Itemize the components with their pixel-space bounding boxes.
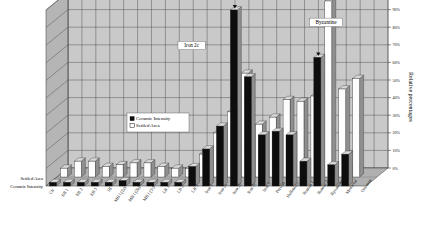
bar-ceramic-intensity-lb-3 [189, 163, 200, 186]
annotation-text: Iron 2c [184, 42, 200, 48]
legend-label-ceramic-intensity: Ceramic Intensity [136, 116, 171, 121]
y-tick-label-10%: 10% [393, 148, 401, 153]
y-tick-label-60%: 60% [393, 60, 401, 65]
bar-settled-area-medieval [353, 75, 364, 177]
bar-settled-area-mb-i-2c- [158, 163, 169, 177]
bar-settled-area-eb-2 [88, 158, 99, 177]
bar-settled-area-mb-i-2a- [130, 160, 141, 177]
bar-ceramic-intensity-medieval [342, 151, 353, 186]
legend-swatch-settled-area [130, 124, 134, 128]
chart-container: 0%10%20%30%40%50%60%70%80%90%100% ChEB 1… [0, 0, 425, 230]
bar-ceramic-intensity-iron-1 [203, 146, 214, 186]
annotation-text: Byzantine [315, 19, 337, 25]
bar-ceramic-intensity-iron-2a [216, 123, 227, 186]
bar-ceramic-intensity-hellenistic [286, 132, 297, 186]
legend-swatch-ceramic-intensity [130, 117, 134, 121]
y-tick-label-90%: 90% [393, 7, 401, 12]
row-label-settled-area: Settled Area [20, 176, 43, 181]
y-tick-label-70%: 70% [393, 42, 401, 47]
bar-settled-area-eb-3 [102, 163, 113, 177]
bar-settled-area-lb-1 [172, 165, 183, 177]
legend-label-settled-area: Settled Area [136, 123, 160, 128]
bar-chart-3d: 0%10%20%30%40%50%60%70%80%90%100% ChEB 1… [0, 0, 425, 230]
bar-settled-area-ib [116, 161, 127, 177]
bar-ceramic-intensity-iron-2b [230, 7, 241, 186]
annotation-byzantine: Byzantine [309, 18, 342, 27]
y-axis-title: Relative percentages [408, 72, 414, 122]
annotation-iron-2c: Iron 2c [178, 41, 205, 50]
chart-legend: Ceramic Intensity Settled Area [127, 113, 189, 132]
bar-ceramic-intensity-iron-3 [258, 132, 269, 186]
y-tick-label-40%: 40% [393, 95, 401, 100]
bar-ceramic-intensity-iron-2c [244, 74, 255, 186]
y-tick-label-30%: 30% [393, 113, 401, 118]
bar-ceramic-intensity-persian [272, 128, 283, 186]
bar-settled-area-ch [60, 165, 71, 177]
bar-settled-area-eb-1 [74, 158, 85, 177]
y-tick-label-80%: 80% [393, 25, 401, 30]
bar-settled-area-mb-i-2b- [144, 160, 155, 177]
y-tick-label-50%: 50% [393, 78, 401, 83]
y-tick-label-20%: 20% [393, 130, 401, 135]
y-tick-label-0%: 0% [393, 166, 399, 171]
bar-ceramic-intensity-roman-2 [314, 54, 325, 186]
row-label-ceramic-intensity: Ceramic Intensity [10, 184, 43, 189]
